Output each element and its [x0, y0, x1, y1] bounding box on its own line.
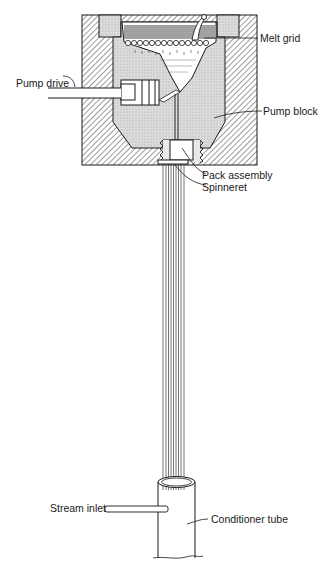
- label-pump-block: Pump block: [263, 106, 318, 117]
- label-spinneret: Spinneret: [202, 182, 247, 193]
- label-pump-drive: Pump drive: [16, 78, 69, 89]
- label-stream-inlet: Stream inlet: [50, 503, 106, 514]
- spinneret: [158, 160, 188, 164]
- left-top-cap: [99, 15, 121, 37]
- label-melt-grid: Melt grid: [260, 33, 300, 44]
- pump-drive-shaft: [48, 88, 121, 98]
- filament-bundle: [163, 164, 184, 490]
- stream-inlet-pipe: [105, 506, 168, 512]
- right-top-cap: [217, 15, 239, 37]
- label-conditioner-tube: Conditioner tube: [211, 514, 288, 525]
- conditioner-tube: [153, 477, 203, 559]
- label-pack-assembly: Pack assembly: [202, 170, 273, 181]
